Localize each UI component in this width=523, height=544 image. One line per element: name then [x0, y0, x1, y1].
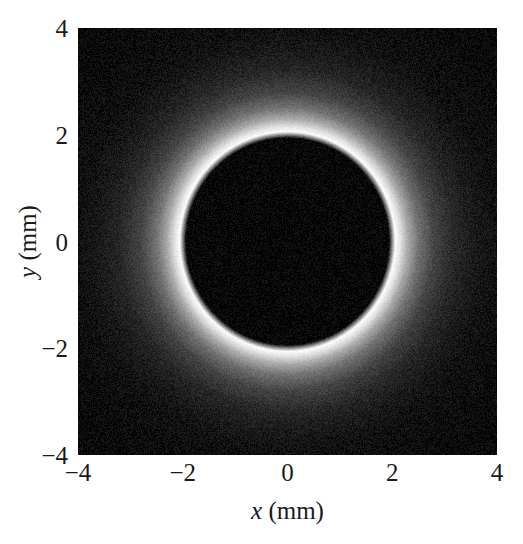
x-tick-label-minus-2: −2	[169, 460, 196, 485]
x-tick-label-4: 4	[491, 460, 504, 485]
intensity-heatmap-image	[78, 28, 497, 455]
x-tick-label-0: 0	[281, 460, 294, 485]
y-axis-label: y (mm)	[14, 28, 48, 455]
x-axis-label-unit-text: (mm)	[268, 497, 324, 524]
x-tick-label-minus-4: −4	[65, 460, 92, 485]
y-axis-label-variable: y	[14, 267, 41, 278]
x-axis-label-variable: x	[251, 497, 262, 524]
x-axis-label: x (mm)	[78, 497, 497, 525]
figure-container: 4 2 0 −2 −4 −4 −2 0 2 4 x (mm) y (mm)	[0, 0, 523, 544]
y-axis-label-space	[14, 261, 41, 267]
y-axis-label-unit-text: (mm)	[14, 205, 41, 261]
x-tick-label-2: 2	[386, 460, 399, 485]
plot-area	[78, 28, 497, 455]
